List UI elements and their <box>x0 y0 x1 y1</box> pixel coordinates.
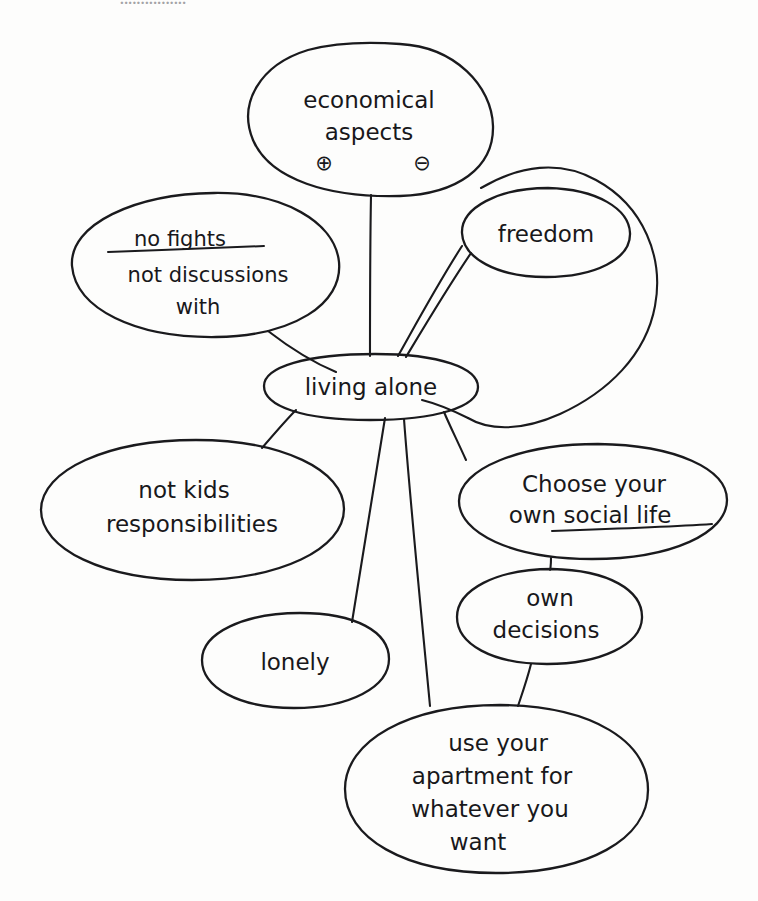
node-label: freedom <box>498 221 594 247</box>
node-ellipse <box>41 440 344 580</box>
node-label-line-1: use your <box>448 730 548 756</box>
node-label-line-1: Choose your <box>522 471 666 497</box>
edge-decisions-to-apartment <box>518 664 531 706</box>
node-freedom[interactable]: freedom <box>462 188 630 277</box>
circled-plus-icon: ⊕ <box>315 151 333 175</box>
node-label-line-1: not kids <box>138 477 229 503</box>
node-label-line-2: own social life <box>509 502 672 528</box>
mindmap-canvas: economical aspects ⊕ ⊖ no fights not dis… <box>0 0 758 901</box>
node-lonely[interactable]: lonely <box>202 613 389 708</box>
node-label-line-3: with <box>176 295 221 319</box>
edge-freedom-to-center-b <box>398 246 462 356</box>
node-no-fights[interactable]: no fights not discussions with <box>72 193 339 337</box>
edge-freedom-to-center-a <box>406 253 471 357</box>
node-label-line-2: aspects <box>325 119 413 145</box>
node-use-your-apartment[interactable]: use your apartment for whatever you want <box>345 705 648 873</box>
node-label-line-2: decisions <box>493 617 600 643</box>
edge-center-to-lonely <box>352 418 385 622</box>
node-label-line-2: apartment for <box>412 763 573 789</box>
edge-notkids-to-center <box>262 410 296 448</box>
node-choose-your-own-social-life[interactable]: Choose your own social life <box>459 444 727 559</box>
node-own-decisions[interactable]: own decisions <box>457 569 642 664</box>
circled-minus-icon: ⊖ <box>413 151 431 175</box>
mindmap-page: ................ <box>0 0 758 901</box>
node-label-line-4: want <box>450 829 507 855</box>
node-label: lonely <box>260 649 329 675</box>
edge-choose-to-center <box>444 412 466 460</box>
node-label-line-2: responsibilities <box>106 511 278 537</box>
edge-economical-to-center <box>370 195 371 356</box>
node-economical-aspects[interactable]: economical aspects ⊕ ⊖ <box>248 43 493 196</box>
node-not-kids-responsibilities[interactable]: not kids responsibilities <box>41 440 344 580</box>
node-label-line-3: whatever you <box>411 796 568 822</box>
nodes-layer: economical aspects ⊕ ⊖ no fights not dis… <box>41 43 727 873</box>
node-label: living alone <box>305 374 438 400</box>
edge-sweeping-loop <box>468 168 657 428</box>
edge-nofights-to-center <box>268 331 336 372</box>
node-label-line-1: economical <box>303 87 434 113</box>
node-label-line-1: own <box>526 585 573 611</box>
node-label-line-2: not discussions <box>128 263 289 287</box>
edge-center-to-apartment <box>404 419 430 706</box>
